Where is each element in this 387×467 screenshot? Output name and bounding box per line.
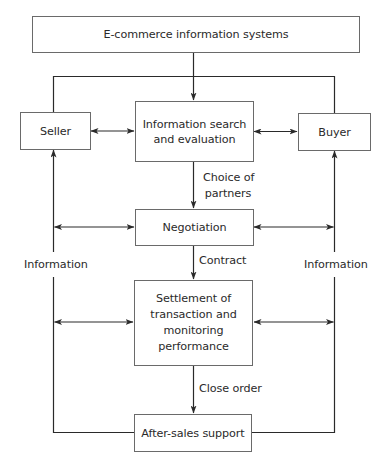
negotiation-box: Negotiation [135, 209, 254, 246]
choice-of-partners-label: Choice of partners [203, 170, 253, 201]
after-sales-box: After-sales support [134, 414, 252, 452]
settlement-box: Settlement of transaction and monitoring… [134, 280, 253, 366]
negotiation-label: Negotiation [163, 220, 227, 235]
settlement-label-line2: transaction and [150, 307, 236, 323]
line-left-lower [54, 277, 135, 433]
information-search-box: Information search and evaluation [135, 101, 254, 162]
information-left-label: Information [24, 257, 88, 272]
choice-line2: partners [203, 186, 253, 201]
ecommerce-systems-label: E-commerce information systems [103, 27, 288, 42]
search-label-line1: Information search [143, 117, 247, 132]
settlement-label-line3: monitoring [163, 323, 223, 339]
buyer-label: Buyer [318, 125, 350, 140]
information-right-label: Information [304, 257, 368, 272]
seller-box: Seller [20, 112, 91, 150]
seller-label: Seller [40, 124, 71, 139]
search-label-line2: and evaluation [153, 132, 235, 147]
choice-line1: Choice of [203, 170, 253, 185]
contract-label: Contract [199, 253, 246, 268]
line-right-lower [252, 277, 335, 433]
buyer-box: Buyer [298, 113, 371, 151]
settlement-label-line4: performance [158, 339, 229, 355]
after-sales-label: After-sales support [141, 426, 244, 441]
ecommerce-systems-box: E-commerce information systems [32, 16, 360, 53]
settlement-label-line1: Settlement of [156, 291, 231, 307]
close-order-label: Close order [199, 381, 262, 396]
